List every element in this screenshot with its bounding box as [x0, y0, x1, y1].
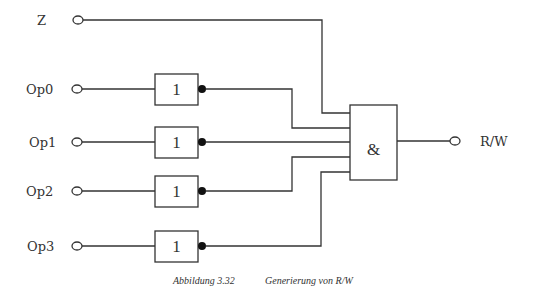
input-terminal-z	[73, 16, 83, 24]
input-terminal-op3	[72, 242, 82, 250]
negation-bubble-icon	[198, 187, 206, 195]
inverter-op0: 1	[155, 74, 206, 105]
input-label-op2: Op2	[26, 184, 53, 199]
negation-bubble-icon	[198, 242, 206, 250]
input-label-z: Z	[37, 13, 46, 28]
output-label: R/W	[480, 134, 508, 149]
caption-title: Generierung von R/W	[265, 275, 354, 286]
and-gate-label: &	[367, 140, 380, 159]
caption-figure-number: Abbildung 3.32	[172, 275, 235, 286]
inverter-label: 1	[172, 80, 181, 99]
and-gate: &	[350, 105, 397, 180]
input-label-op1: Op1	[29, 135, 56, 150]
inverter-op2: 1	[155, 176, 206, 207]
negation-bubble-icon	[198, 85, 206, 93]
negation-bubble-icon	[198, 138, 206, 146]
inverter-op1: 1	[155, 127, 206, 158]
inverter-label: 1	[172, 237, 181, 256]
wire-op0-out	[206, 89, 350, 128]
wire-op3-out	[206, 172, 350, 246]
input-terminal-op0	[72, 85, 82, 93]
input-label-op0: Op0	[26, 82, 53, 97]
logic-diagram: Z Op0 Op1 Op2 Op3 1 1 1 1 &	[0, 0, 535, 297]
input-terminal-op1	[72, 138, 82, 146]
input-terminal-op2	[72, 187, 82, 195]
inverter-label: 1	[172, 133, 181, 152]
output-terminal	[450, 137, 460, 145]
inverter-op3: 1	[155, 231, 206, 262]
wire-op2-out	[206, 157, 350, 191]
inverter-label: 1	[172, 182, 181, 201]
input-label-op3: Op3	[27, 239, 54, 254]
wire-z	[83, 20, 350, 113]
